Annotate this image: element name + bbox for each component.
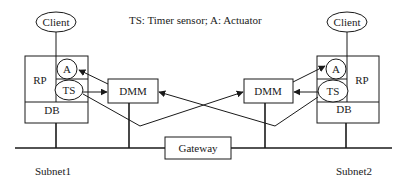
subnet1-label: Subnet1: [35, 165, 71, 177]
left-client: Client: [36, 12, 76, 56]
arrow-right-sensor-to-left-dmm: [159, 92, 318, 126]
left-sensor-label: TS: [63, 84, 76, 96]
left-actuator-label: A: [63, 63, 71, 75]
left-dmm: DMM: [108, 79, 158, 148]
right-client: Client: [327, 12, 367, 56]
right-actuator-label: A: [332, 63, 340, 75]
left-rp-label: RP: [33, 74, 46, 86]
network-diagram: TS: Timer sensor; A: Actuator Gateway Cl…: [0, 0, 406, 188]
right-sensor-label: TS: [327, 85, 340, 97]
right-timer-sensor: TS: [318, 80, 348, 102]
subnet2-label: Subnet2: [336, 165, 372, 177]
arrow-left-sensor-to-right-dmm: [83, 92, 243, 126]
left-dmm-label: DMM: [119, 85, 147, 97]
right-client-label: Client: [334, 16, 361, 28]
gateway-box: Gateway: [165, 137, 231, 159]
gateway-label: Gateway: [178, 142, 218, 154]
right-dmm-label: DMM: [254, 85, 282, 97]
left-actuator: A: [57, 59, 77, 79]
left-db-label: DB: [44, 104, 59, 116]
right-rp-label: RP: [355, 74, 368, 86]
right-db-label: DB: [336, 103, 351, 115]
right-actuator: A: [326, 59, 346, 79]
left-timer-sensor: TS: [55, 80, 83, 100]
left-client-label: Client: [43, 16, 70, 28]
legend-text: TS: Timer sensor; A: Actuator: [129, 14, 262, 26]
right-dmm: DMM: [244, 79, 293, 148]
